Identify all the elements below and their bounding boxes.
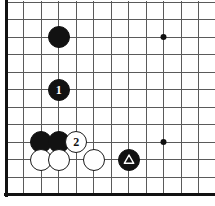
star-point-upper-right	[161, 34, 167, 40]
board-grid	[0, 0, 215, 206]
star-point-lower-right	[161, 139, 167, 145]
go-board-diagram: 12	[0, 0, 215, 206]
